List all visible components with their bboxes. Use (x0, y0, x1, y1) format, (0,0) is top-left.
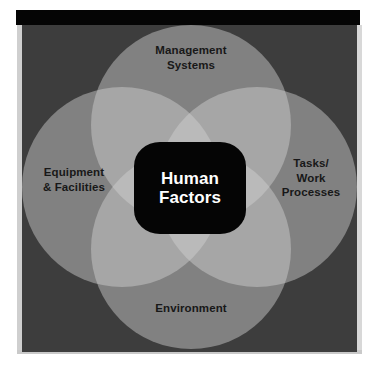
figure-page: Management Systems Equipment & Facilitie… (0, 0, 374, 369)
venn-label-line: Systems (135, 58, 247, 73)
figure-right-edge (357, 25, 362, 353)
venn-diagram-stage: Management Systems Equipment & Facilitie… (22, 25, 357, 352)
venn-label-management-systems: Management Systems (135, 43, 247, 72)
center-label-line: Factors (159, 188, 221, 207)
figure-top-bar (16, 10, 360, 25)
venn-label-line: Equipment (24, 165, 124, 180)
venn-label-line: Work (265, 171, 357, 186)
venn-center-human-factors: Human Factors (134, 142, 246, 234)
venn-label-line: & Facilities (24, 180, 124, 195)
venn-label-line: Management (135, 43, 247, 58)
venn-label-environment: Environment (135, 301, 247, 316)
venn-label-line: Processes (265, 185, 357, 200)
venn-label-line: Environment (135, 301, 247, 316)
venn-label-tasks-work-processes: Tasks/ Work Processes (265, 156, 357, 200)
venn-label-equipment-facilities: Equipment & Facilities (24, 165, 124, 194)
venn-label-line: Tasks/ (265, 156, 357, 171)
center-label-line: Human (161, 169, 219, 188)
